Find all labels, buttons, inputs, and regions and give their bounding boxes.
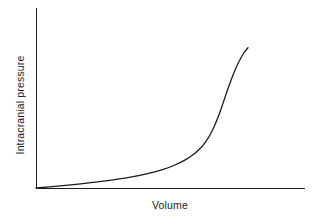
pressure-volume-curve — [36, 48, 248, 188]
pressure-volume-chart: Intracranial pressure Volume — [0, 0, 316, 218]
chart-canvas — [0, 0, 316, 218]
x-axis-label: Volume — [152, 200, 188, 211]
y-axis-label: Intracranial pressure — [15, 56, 26, 155]
